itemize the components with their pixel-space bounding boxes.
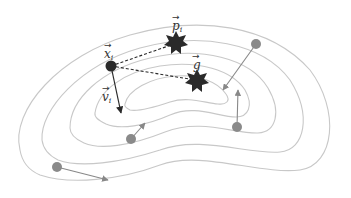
velocity-arrow [237,90,238,127]
velocity-arrow [57,167,108,180]
particle [251,39,261,49]
contour-2 [42,41,303,164]
diagram-canvas: xi → pi → g → vi → [0,0,351,198]
particle [232,122,242,132]
vec-arrow-pi: → [172,12,180,22]
velocity-vector-vi [111,66,121,113]
vec-arrow-xi: → [104,40,112,50]
current-particle-xi [106,61,117,72]
pso-diagram: xi → pi → g → vi → [0,0,351,198]
particle [52,162,62,172]
personal-best-star-icon [164,31,188,54]
global-best-star-icon [185,69,209,92]
contour-inner [125,76,228,111]
vec-arrow-g: → [192,51,200,61]
contour-3 [70,53,276,146]
particle [126,134,136,144]
contour-4 [95,64,249,127]
vec-arrow-vi: → [102,83,110,93]
